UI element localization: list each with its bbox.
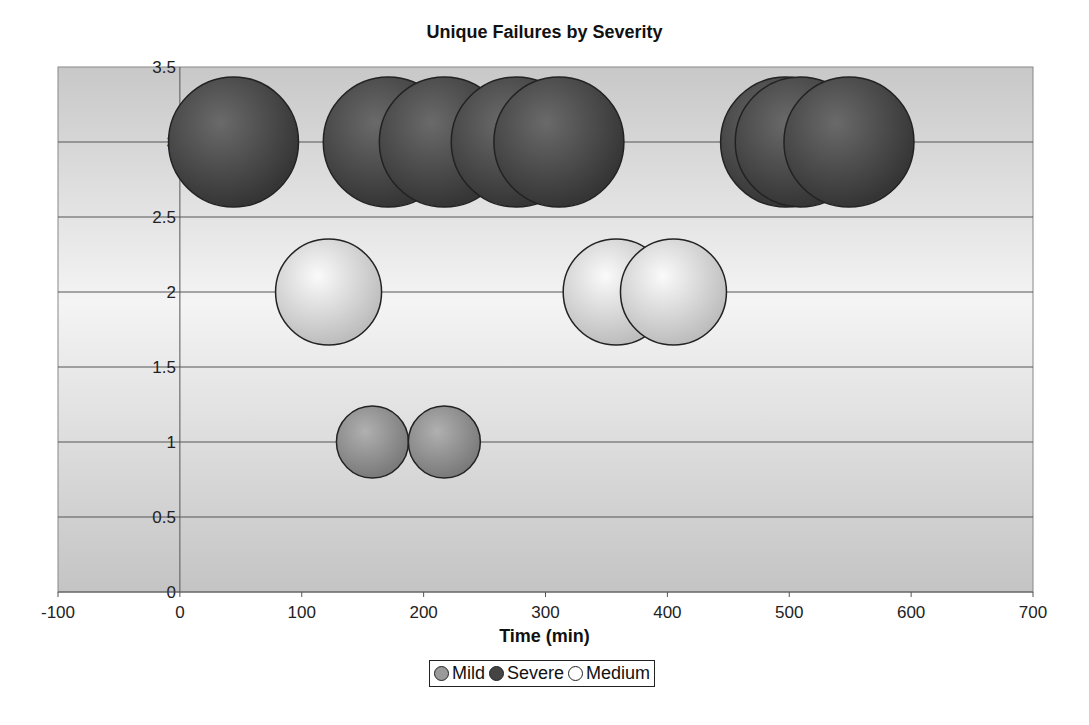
y-tick-label: 1 <box>166 433 175 452</box>
legend-label: Mild <box>452 663 485 684</box>
x-tick-label: 500 <box>775 603 803 622</box>
mild-swatch-icon <box>434 666 449 681</box>
x-tick-label: 300 <box>531 603 559 622</box>
x-tick-label: 600 <box>897 603 925 622</box>
mild-bubble <box>408 406 480 478</box>
y-tick-label: 1.5 <box>152 358 176 377</box>
medium-bubble <box>620 239 726 345</box>
y-tick-label: 2.5 <box>152 208 176 227</box>
severe-bubble <box>784 77 914 207</box>
legend-item-severe: Severe <box>489 663 564 684</box>
x-tick-label: 200 <box>409 603 437 622</box>
x-tick-label: -100 <box>41 603 75 622</box>
x-tick-label: 0 <box>175 603 184 622</box>
legend: Mild Severe Medium <box>429 660 655 687</box>
legend-item-mild: Mild <box>434 663 485 684</box>
x-tick-label: 700 <box>1019 603 1047 622</box>
severe-swatch-icon <box>489 666 504 681</box>
bubble-chart: 00.511.522.533.5-10001002003004005006007… <box>0 0 1089 725</box>
y-tick-label: 2 <box>166 283 175 302</box>
severe-bubble <box>494 77 624 207</box>
mild-bubble <box>336 406 408 478</box>
medium-swatch-icon <box>568 666 583 681</box>
legend-label: Severe <box>507 663 564 684</box>
x-tick-label: 100 <box>288 603 316 622</box>
x-tick-label: 400 <box>653 603 681 622</box>
y-tick-label: 3.5 <box>152 58 176 77</box>
medium-bubble <box>276 239 382 345</box>
y-tick-label: 0.5 <box>152 508 176 527</box>
legend-item-medium: Medium <box>568 663 650 684</box>
legend-label: Medium <box>586 663 650 684</box>
severe-bubble <box>169 77 299 207</box>
x-axis-label: Time (min) <box>0 626 1089 647</box>
